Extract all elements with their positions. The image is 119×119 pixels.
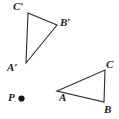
point-p-dot-icon [18, 95, 24, 101]
vertex-label-a: A [59, 92, 66, 103]
vertex-label-b: B [104, 104, 111, 115]
vertex-label-b-prime: B′ [60, 17, 70, 28]
geometry-figure: C′ B′ A′ C A B P [0, 0, 119, 119]
vertex-label-c-prime: C′ [13, 1, 23, 12]
vertex-label-a-prime: A′ [7, 62, 17, 73]
vertex-label-c: C [106, 59, 113, 70]
point-label-p: P [8, 92, 15, 103]
